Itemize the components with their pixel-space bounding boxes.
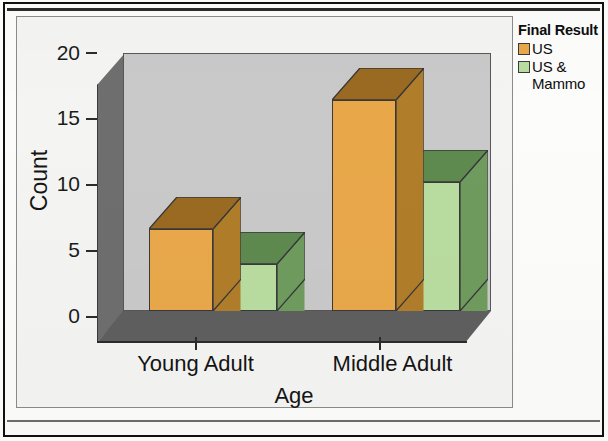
y-axis-tick-label: 20 <box>57 42 80 63</box>
page-border-rule-top <box>7 8 600 11</box>
bar-middle-adult-us[interactable] <box>332 68 396 311</box>
y-axis-tick-label: 5 <box>68 239 80 260</box>
x-axis-tick-mark <box>195 337 197 350</box>
x-axis-category-label: Middle Adult <box>294 351 491 377</box>
scanned-page: 20 15 10 5 0 Count <box>0 0 608 441</box>
x-axis: Young Adult Middle Adult Age <box>97 343 491 407</box>
bar-front-face <box>332 100 396 311</box>
bar-young-adult-us[interactable] <box>149 197 213 311</box>
y-axis-tick-label: 10 <box>57 173 80 194</box>
y-axis-tick-mark <box>86 52 97 54</box>
page-border-rule-bottom <box>7 420 600 422</box>
legend-item-us-mammo[interactable]: US & Mammo <box>518 58 606 93</box>
legend-item-label: US & Mammo <box>532 58 594 93</box>
y-axis-tick-mark <box>86 250 97 252</box>
plot-area <box>97 53 491 343</box>
y-axis-title: Count <box>26 101 53 261</box>
chart-legend: Final Result US US & Mammo <box>518 22 606 93</box>
legend-swatch-icon <box>518 43 530 55</box>
y-axis-tick-mark <box>86 118 97 120</box>
y-axis-tick-label: 15 <box>57 107 80 128</box>
bar-front-face <box>149 229 213 311</box>
x-axis-title: Age <box>97 383 491 409</box>
y-axis-tick-label: 0 <box>68 305 80 326</box>
legend-swatch-icon <box>518 61 530 73</box>
plot-left-wall <box>97 53 125 343</box>
y-axis-tick-mark <box>86 316 97 318</box>
plot-floor <box>97 311 491 343</box>
chart-figure: 20 15 10 5 0 Count <box>16 16 513 408</box>
y-axis-tick-mark <box>86 184 97 186</box>
x-axis-labels: Young Adult Middle Adult <box>97 351 491 377</box>
x-axis-tick-mark <box>379 337 381 350</box>
bar-side-face <box>396 68 424 311</box>
legend-item-us[interactable]: US <box>518 40 606 58</box>
legend-title: Final Result <box>518 22 606 38</box>
legend-item-label: US <box>532 40 552 58</box>
x-axis-category-label: Young Adult <box>97 351 294 377</box>
